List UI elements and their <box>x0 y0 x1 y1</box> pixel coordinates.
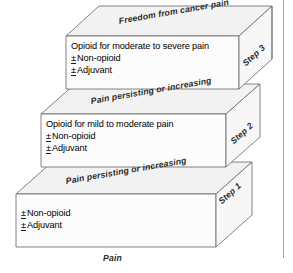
step-1-text-block: ±Non-opioid ±Adjuvant <box>21 207 185 231</box>
step-2-text-block: Opioid for mild to moderate pain ±Non-op… <box>46 118 210 155</box>
step-1-line-1: ±Non-opioid <box>21 207 185 219</box>
plus-minus-icon: ± <box>21 221 26 231</box>
step-3-line-1: Opioid for moderate to severe pain <box>71 40 235 52</box>
step-3-line-3: ±Adjuvant <box>71 64 235 76</box>
step-1-line-2: ±Adjuvant <box>21 219 185 231</box>
who-analgesic-ladder-diagram: Freedom from cancer pain Step 3 Opioid f… <box>0 0 293 273</box>
step-1-block <box>16 162 252 247</box>
step-2-line-2: ±Non-opioid <box>46 130 210 142</box>
step-2-line-1: Opioid for mild to moderate pain <box>46 118 210 130</box>
plus-minus-icon: ± <box>71 54 76 64</box>
step-2-line-3: ±Adjuvant <box>46 142 210 154</box>
step-3-line-2: ±Non-opioid <box>71 52 235 64</box>
plus-minus-icon: ± <box>46 144 51 154</box>
plus-minus-icon: ± <box>71 66 76 76</box>
plus-minus-icon: ± <box>21 209 26 219</box>
plus-minus-icon: ± <box>46 132 51 142</box>
step-3-text-block: Opioid for moderate to severe pain ±Non-… <box>71 40 235 77</box>
step-3-top-face <box>66 6 272 36</box>
